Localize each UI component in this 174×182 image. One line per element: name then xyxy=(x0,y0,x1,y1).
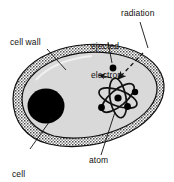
label-cell-nucleus: cell nucleus xyxy=(12,150,42,182)
atom-electron xyxy=(98,104,105,111)
label-ejected-electron-line1: ejected xyxy=(91,42,122,52)
radiation-cell-diagram: radiation ejected electron cell wall cel… xyxy=(0,0,174,182)
atom-electron xyxy=(132,89,138,95)
label-ejected-electron-line2: electron xyxy=(91,71,122,81)
atom-electron xyxy=(124,103,131,110)
label-cell-wall: cell wall xyxy=(10,38,41,48)
cell-nucleus-shape xyxy=(28,89,65,124)
label-atom: atom xyxy=(89,156,108,166)
label-cell-nucleus-line1: cell xyxy=(12,170,42,180)
label-radiation: radiation xyxy=(121,9,155,19)
radiation-leader-line xyxy=(140,22,148,48)
label-ejected-electron: ejected electron xyxy=(91,22,122,100)
